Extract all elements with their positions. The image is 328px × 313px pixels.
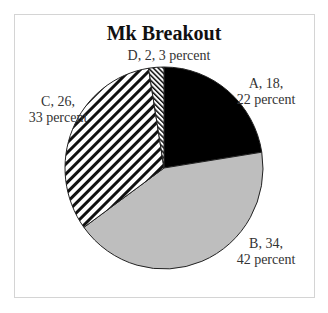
label-b: B, 34, 42 percent — [226, 236, 306, 268]
label-a: A, 18, 22 percent — [226, 76, 306, 108]
label-c: C, 26, 33 percent — [18, 94, 98, 126]
label-c-line1: C, 26, — [18, 94, 98, 110]
label-d-line1: D, 2, 3 percent — [104, 48, 234, 64]
label-b-line1: B, 34, — [226, 236, 306, 252]
label-a-line1: A, 18, — [226, 76, 306, 92]
label-a-line2: 22 percent — [226, 92, 306, 108]
label-d: D, 2, 3 percent — [104, 48, 234, 64]
label-b-line2: 42 percent — [226, 252, 306, 268]
label-c-line2: 33 percent — [18, 110, 98, 126]
